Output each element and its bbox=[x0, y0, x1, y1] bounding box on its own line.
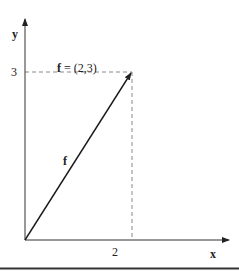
x-axis-label: x bbox=[210, 247, 216, 261]
tick-label-x: 2 bbox=[112, 245, 118, 259]
vector-diagram: y x f = (2,3) f 3 2 bbox=[0, 0, 239, 273]
y-axis-label: y bbox=[12, 27, 18, 41]
tick-label-y: 3 bbox=[11, 65, 17, 79]
vector-equation-value: = (2,3) bbox=[61, 61, 97, 75]
vector-label: f bbox=[63, 154, 68, 168]
vector-equation: f = (2,3) bbox=[57, 61, 97, 75]
vector-f-arrow bbox=[25, 73, 131, 240]
